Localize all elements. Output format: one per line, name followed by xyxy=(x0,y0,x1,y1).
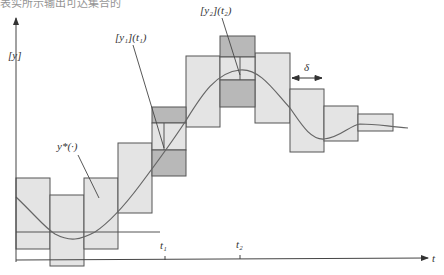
interval-box-11 xyxy=(358,114,393,131)
interval-box-3 xyxy=(84,178,118,249)
y-axis-label: [y] xyxy=(8,50,21,61)
reachable-set-diagram xyxy=(0,0,444,275)
interval-box-9 xyxy=(290,89,324,152)
interval-box-t1 xyxy=(152,107,186,176)
delta-arrow xyxy=(292,76,322,81)
t1-tick-label: t₁ xyxy=(160,240,167,251)
y1-t1-label: [y₁](t₁) xyxy=(115,32,146,43)
leader-y1-t1 xyxy=(133,45,164,148)
interval-boxes xyxy=(16,53,393,266)
t2-tick-label: t₂ xyxy=(236,239,243,250)
ystar-label: y*(·) xyxy=(57,141,77,152)
delta-label: δ xyxy=(304,62,309,73)
y2-t2-label: [y₂](t₂) xyxy=(200,5,231,16)
interval-box-10 xyxy=(324,106,358,141)
interval-box-4 xyxy=(118,143,152,213)
interval-box-2 xyxy=(50,195,84,266)
t-axis-label: t xyxy=(432,253,435,264)
interval-box-6 xyxy=(186,56,220,127)
